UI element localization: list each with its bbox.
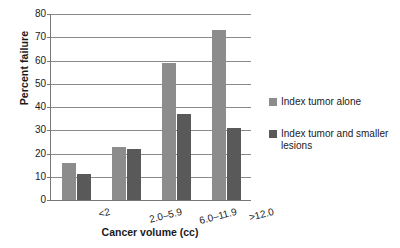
plot-area [50,14,251,200]
legend-label: Index tumor alone [281,96,361,108]
legend-item: Index tumor and smaller lesions [269,128,400,152]
bar [162,63,176,200]
x-axis-title: Cancer volume (cc) [50,226,250,238]
y-axis-tick-label: 30 [24,125,46,135]
y-axis-tick-label: 10 [24,172,46,182]
y-axis-tick-label: 20 [24,149,46,159]
bar [127,149,141,200]
bar [177,114,191,200]
bar [227,128,241,200]
bar-series-container [51,14,251,200]
x-axis-tick-label: 6.0–11.9 [198,206,238,226]
x-axis-tick-label: <2 [97,206,111,219]
bar-group [201,14,251,200]
bar-chart-figure: Percent failure 01020304050607080 <22.0–… [0,0,400,248]
legend-swatch-icon [269,130,277,138]
y-axis-tick-labels: 01020304050607080 [24,0,46,248]
y-axis-tick-label: 0 [24,195,46,205]
legend-item: Index tumor alone [269,96,400,108]
y-axis-tick-label: 60 [24,56,46,66]
chart-legend: Index tumor aloneIndex tumor and smaller… [269,96,400,172]
bar-group [101,14,151,200]
y-axis-tick-label: 40 [24,102,46,112]
bar [112,147,126,200]
bar-group [151,14,201,200]
y-axis-tick-label: 50 [24,79,46,89]
bar [62,163,76,200]
y-axis-tick-label: 70 [24,32,46,42]
x-axis-tick-label: >12.0 [248,206,275,223]
bar [212,30,226,200]
legend-swatch-icon [269,98,277,106]
x-axis-tick-label: 2.0–5.9 [148,206,183,225]
bar-group [51,14,101,200]
y-axis-tick-label: 80 [24,9,46,19]
bar [77,174,91,200]
y-axis-tick-mark [47,200,51,201]
gridline [51,200,251,201]
legend-label: Index tumor and smaller lesions [281,128,400,152]
